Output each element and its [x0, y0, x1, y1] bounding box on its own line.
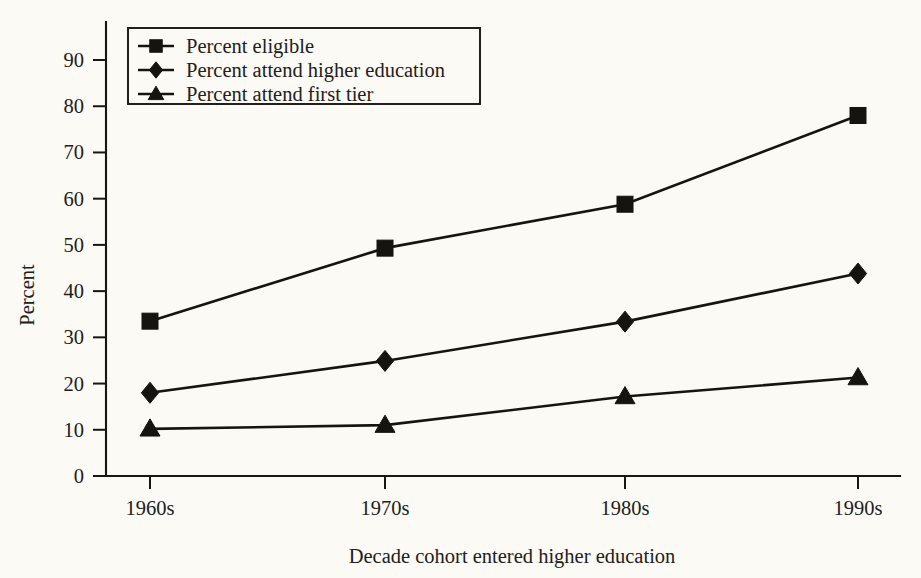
x-tick-label: 1980s — [601, 497, 650, 519]
data-point-square — [850, 107, 866, 123]
x-axis-title: Decade cohort entered higher education — [349, 545, 676, 568]
y-tick-label: 20 — [64, 373, 85, 395]
y-tick-label: 70 — [64, 141, 85, 163]
y-tick-label: 40 — [64, 280, 85, 302]
legend-label: Percent eligible — [186, 35, 314, 58]
y-axis-title: Percent — [16, 264, 38, 326]
legend-label: Percent attend higher education — [186, 59, 445, 82]
y-tick-label: 10 — [64, 419, 85, 441]
x-tick-label: 1960s — [126, 497, 175, 519]
y-tick-label: 50 — [64, 234, 85, 256]
y-tick-label: 0 — [74, 465, 84, 487]
data-point-square — [377, 240, 393, 256]
chart-canvas: 0102030405060708090 1960s1970s1980s1990s… — [0, 0, 921, 578]
y-tick-label: 80 — [64, 95, 85, 117]
legend-label: Percent attend first tier — [186, 83, 373, 105]
data-point-square — [617, 196, 633, 212]
y-tick-label: 30 — [64, 326, 85, 348]
x-tick-label: 1970s — [361, 497, 410, 519]
x-tick-label: 1990s — [834, 497, 883, 519]
line-chart: 0102030405060708090 1960s1970s1980s1990s… — [0, 0, 921, 578]
y-tick-label: 90 — [64, 49, 85, 71]
y-tick-label: 60 — [64, 188, 85, 210]
chart-legend[interactable]: Percent eligiblePercent attend higher ed… — [128, 28, 480, 105]
legend-marker-square-icon — [150, 40, 162, 52]
data-point-square — [142, 313, 158, 329]
